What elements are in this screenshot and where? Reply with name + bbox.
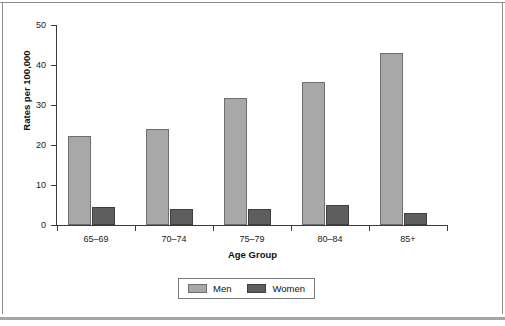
x-tick: [135, 226, 136, 231]
x-tick-label: 65–69: [61, 234, 131, 244]
top-rule: [0, 2, 505, 3]
bar-men-6569: [68, 136, 91, 225]
bar-women-6569: [92, 207, 115, 225]
x-tick-label: 85+: [373, 234, 443, 244]
bottom-rule: [0, 317, 505, 320]
legend-label: Men: [213, 283, 231, 294]
x-tick: [369, 226, 370, 231]
x-axis-title: Age Group: [0, 249, 505, 260]
bar-men-8084: [302, 82, 325, 225]
x-tick: [57, 226, 58, 231]
plot-area: [57, 25, 447, 225]
legend: MenWomen: [178, 278, 315, 299]
bar-women-85+: [404, 213, 427, 225]
bar-men-7074: [146, 129, 169, 225]
bar-women-7579: [248, 209, 271, 225]
y-tick-label: 30: [6, 101, 46, 110]
right-rule: [502, 2, 503, 314]
bar-men-85+: [380, 53, 403, 225]
bar-women-7074: [170, 209, 193, 225]
y-tick-label: 40: [6, 61, 46, 70]
y-axis-title: Rates per 100,000: [21, 21, 32, 161]
y-tick-label: 10: [6, 181, 46, 190]
y-tick-label: 0: [6, 221, 46, 230]
bar-men-7579: [224, 98, 247, 225]
x-tick-label: 70–74: [139, 234, 209, 244]
x-tick: [213, 226, 214, 231]
legend-entry-women[interactable]: Women: [247, 283, 305, 294]
x-axis-line: [56, 225, 448, 226]
legend-label: Women: [272, 283, 305, 294]
y-tick-label: 50: [6, 21, 46, 30]
left-rule: [2, 2, 3, 314]
legend-swatch-women-icon: [247, 284, 266, 293]
x-tick-label: 75–79: [217, 234, 287, 244]
x-tick: [291, 226, 292, 231]
figure-container: Rates per 100,000 01020304050 65–6970–74…: [0, 0, 505, 326]
legend-swatch-men-icon: [188, 284, 207, 293]
bar-women-8084: [326, 205, 349, 225]
x-tick: [447, 226, 448, 231]
legend-entry-men[interactable]: Men: [188, 283, 231, 294]
y-tick-label: 20: [6, 141, 46, 150]
x-tick-label: 80–84: [295, 234, 365, 244]
